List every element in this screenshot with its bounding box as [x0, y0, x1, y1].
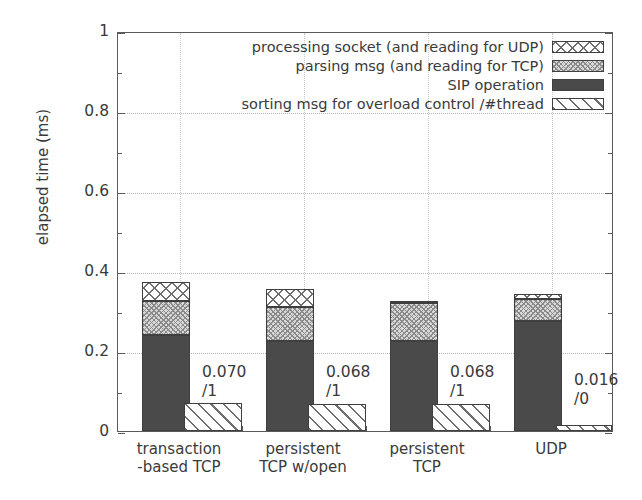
overlay-bar-sorting-msg [184, 403, 242, 431]
bar-value-annotation: 0.068 /1 [326, 363, 370, 401]
bar-segment [514, 294, 562, 299]
bar-segment [390, 341, 438, 431]
legend-item-label: sorting msg for overload control /#threa… [241, 96, 544, 112]
legend-swatch-crosshatch-icon [552, 41, 604, 53]
y-axis-tick-label: 0.8 [49, 102, 109, 120]
bar-segment [142, 282, 190, 301]
y-axis-tick-label: 0.4 [49, 262, 109, 280]
bar-segment [266, 307, 314, 341]
legend-item: sorting msg for overload control /#threa… [241, 96, 604, 112]
bar-segment [390, 301, 438, 303]
y-tick-major [118, 353, 125, 354]
stacked-bar [390, 301, 438, 431]
y-tick-major [118, 113, 125, 114]
x-tick [366, 426, 367, 431]
y-tick-minor [608, 233, 612, 234]
gridline-horizontal [118, 193, 612, 194]
y-tick-major [605, 193, 612, 194]
legend-swatch-stipple-icon [552, 60, 604, 72]
y-tick-major [605, 273, 612, 274]
legend-swatch-diagonal-icon [552, 98, 604, 110]
legend-item-label: SIP operation [448, 77, 544, 93]
overlay-bar-sorting-msg [556, 425, 612, 431]
legend-item: SIP operation [448, 77, 604, 93]
gridline-horizontal [118, 113, 612, 114]
y-axis-tick-label: 0.2 [49, 342, 109, 360]
legend-item: processing socket (and reading for UDP) [252, 39, 604, 55]
y-tick-minor [608, 73, 612, 74]
bar-value-annotation: 0.068 /1 [450, 363, 494, 401]
gridline-horizontal [118, 273, 612, 274]
y-tick-minor [118, 153, 122, 154]
y-tick-major [118, 273, 125, 274]
legend-item-label: parsing msg (and reading for TCP) [296, 58, 544, 74]
chart-legend: processing socket (and reading for UDP) … [241, 39, 604, 112]
y-tick-minor [608, 313, 612, 314]
stacked-bar [266, 289, 314, 431]
stacked-bar [514, 294, 562, 431]
overlay-bar-sorting-msg [308, 404, 366, 431]
y-tick-major [605, 433, 612, 434]
bar-segment [142, 301, 190, 335]
bar-segment [514, 321, 562, 431]
y-axis-tick-label: 0.6 [49, 182, 109, 200]
bar-segment [514, 299, 562, 321]
bar-chart: elapsed time (ms) 00.20.40.60.81 transac… [0, 0, 642, 500]
y-tick-major [118, 33, 125, 34]
x-axis-tick-label: persistent TCP [365, 440, 489, 476]
x-tick [242, 426, 243, 431]
bar-segment [390, 303, 438, 341]
bar-segment [266, 341, 314, 431]
y-tick-major [605, 113, 612, 114]
legend-item: parsing msg (and reading for TCP) [296, 58, 604, 74]
y-tick-minor [118, 393, 122, 394]
plot-area: 0.070 /10.068 /10.068 /10.016 /0 process… [117, 32, 613, 432]
x-tick [490, 426, 491, 431]
y-axis-tick-label: 0 [49, 422, 109, 440]
bar-value-annotation: 0.070 /1 [202, 363, 246, 401]
y-axis-tick-label: 1 [49, 22, 109, 40]
overlay-bar-sorting-msg [432, 404, 490, 431]
bar-segment [266, 289, 314, 307]
y-tick-minor [118, 73, 122, 74]
y-tick-minor [608, 153, 612, 154]
y-tick-minor [118, 233, 122, 234]
y-tick-minor [118, 313, 122, 314]
legend-swatch-solid-icon [552, 79, 604, 91]
y-tick-major [118, 433, 125, 434]
x-axis-tick-label: UDP [489, 440, 613, 458]
bar-value-annotation: 0.016 /0 [574, 371, 618, 409]
y-tick-major [605, 353, 612, 354]
legend-item-label: processing socket (and reading for UDP) [252, 39, 544, 55]
stacked-bar [142, 282, 190, 431]
bar-segment [142, 335, 190, 431]
x-axis-tick-label: transaction -based TCP [117, 440, 241, 476]
x-axis-tick-label: persistent TCP w/open [241, 440, 365, 476]
y-tick-major [118, 193, 125, 194]
y-tick-major [605, 33, 612, 34]
